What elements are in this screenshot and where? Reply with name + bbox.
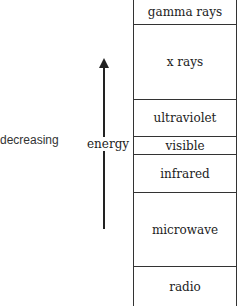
- decreasing-label: decreasing: [0, 133, 59, 147]
- spectrum-column: gamma rays x rays ultraviolet visible in…: [133, 0, 237, 306]
- band-radio: radio: [134, 267, 236, 306]
- band-infrared: infrared: [134, 155, 236, 193]
- band-gamma-rays: gamma rays: [134, 0, 236, 25]
- band-ultraviolet: ultraviolet: [134, 100, 236, 137]
- energy-label: energy: [86, 137, 130, 151]
- band-visible: visible: [134, 137, 236, 155]
- band-x-rays: x rays: [134, 25, 236, 100]
- band-microwave: microwave: [134, 193, 236, 267]
